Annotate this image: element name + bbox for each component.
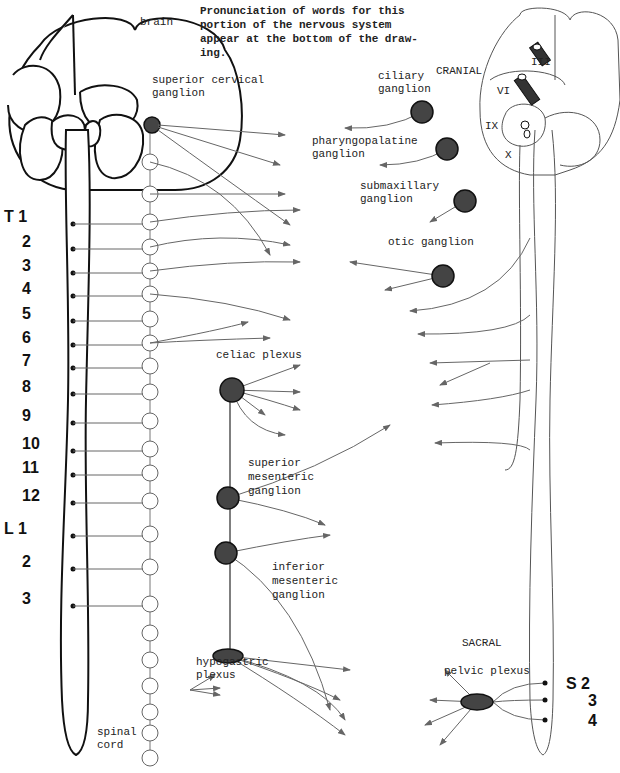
segment-label: 7 (22, 352, 31, 369)
segment-label: 3 (22, 257, 31, 274)
label-pelvic: pelvic plexus (444, 665, 530, 677)
caption: Pronunciation of words for this portion … (200, 5, 418, 59)
chain-ganglion (142, 441, 158, 457)
sacral-segment-label: 4 (588, 712, 597, 729)
segment-label: L 1 (4, 520, 27, 537)
chain-ganglion (142, 725, 158, 741)
label-spinal-cord: spinal (97, 726, 137, 738)
sacral-root-dot (543, 718, 548, 723)
nerve-fiber (435, 442, 530, 450)
chain-ganglion (142, 311, 158, 327)
segment-label: 5 (22, 305, 31, 322)
segment-label: 12 (22, 487, 40, 504)
label-superior-cervical: ganglion (152, 87, 205, 99)
label-brain: brain (140, 16, 173, 28)
chain-ganglion (142, 465, 158, 481)
label-pharyngopalatine: ganglion (312, 148, 365, 160)
segment-label: 6 (22, 329, 31, 346)
nerve-fiber (418, 315, 530, 334)
nerve-fiber (432, 390, 530, 405)
nerve-fiber (228, 498, 325, 525)
caption-line: appear at the bottom of the draw- (200, 33, 418, 45)
superior-cervical-ganglion (144, 117, 160, 133)
nerve-fiber (350, 262, 443, 276)
otic-ganglion (432, 265, 454, 287)
nerve-fiber (190, 690, 220, 695)
segment-label: 9 (22, 407, 31, 424)
nerve-fiber (410, 238, 530, 311)
chain-ganglion (142, 384, 158, 400)
label-inferior-mesenteric: inferior (272, 561, 325, 573)
label-submaxillary: ganglion (360, 193, 413, 205)
sacral-segment-label: 3 (588, 692, 597, 709)
nerve-fiber (190, 688, 220, 690)
label-cn-ix: IX (485, 120, 499, 132)
sacral-root-dot (543, 698, 548, 703)
chain-ganglion (142, 652, 158, 668)
superior-mesenteric-ganglion (217, 487, 239, 509)
label-superior-cervical: superior cervical (152, 74, 264, 86)
nerve-fiber (345, 112, 422, 128)
label-spinal-cord: cord (97, 739, 123, 751)
chain-ganglion (142, 493, 158, 509)
label-pharyngopalatine: pharyngopalatine (312, 135, 418, 147)
label-otic: otic ganglion (388, 236, 474, 248)
caption-line: Pronunciation of words for this (200, 5, 405, 17)
chain-ganglion (142, 358, 158, 374)
segment-label: 11 (22, 459, 39, 476)
nerve-fiber (440, 363, 490, 385)
chain-ganglion (142, 559, 158, 575)
label-superior-mesenteric: superior (248, 457, 301, 469)
chain-ganglion (142, 750, 158, 766)
chain-ganglion (142, 704, 158, 720)
caption-line: portion of the nervous system (200, 19, 392, 31)
sacral-fiber (493, 700, 545, 702)
submaxillary-ganglion (454, 190, 476, 212)
label-cn-iii: III (531, 56, 551, 68)
nervous-system-diagram: brain Pronunciation of words for this po… (0, 0, 620, 773)
nerve-fiber (226, 535, 330, 553)
segment-label: 10 (22, 435, 40, 452)
sacral-fiber (493, 702, 545, 720)
label-cranial: CRANIAL (436, 65, 482, 77)
label-superior-mesenteric: ganglion (248, 485, 301, 497)
sacral-segment-label: S 2 (566, 675, 590, 692)
label-inferior-mesenteric: ganglion (272, 589, 325, 601)
label-ciliary: ciliary (378, 70, 425, 82)
label-celiac: celiac plexus (216, 349, 302, 361)
nerve-fiber (150, 262, 300, 271)
pharyngopalatine-ganglion (436, 138, 458, 160)
segment-label: 3 (22, 590, 31, 607)
label-superior-mesenteric: mesenteric (248, 471, 314, 483)
segment-label: 2 (22, 553, 31, 570)
chain-ganglion (142, 526, 158, 542)
celiac-plexus (220, 378, 244, 402)
label-hypogastric: plexus (196, 669, 236, 681)
brain-left (8, 15, 242, 755)
segment-label: 8 (22, 378, 31, 395)
chain-ganglion (142, 413, 158, 429)
segment-label: 4 (22, 280, 31, 297)
nerve-fiber (430, 360, 530, 363)
sacral-fiber (493, 683, 545, 702)
segment-label: T 1 (4, 208, 27, 225)
nerve-fiber (150, 338, 270, 343)
ciliary-ganglion (411, 101, 433, 123)
segment-label: 2 (22, 233, 31, 250)
label-submaxillary: submaxillary (360, 180, 440, 192)
sacral-root-dot (543, 681, 548, 686)
chain-ganglion (142, 625, 158, 641)
label-cn-x: X (505, 149, 512, 161)
inferior-mesenteric-ganglion (215, 542, 237, 564)
label-inferior-mesenteric: mesenteric (272, 575, 338, 587)
label-cn-vi: VI (497, 85, 510, 97)
nerve-fiber (150, 322, 248, 343)
spinal-cord-right (529, 130, 555, 755)
nerve-fiber (150, 294, 290, 320)
caption-line: ing. (200, 47, 226, 59)
chain-ganglion (142, 596, 158, 612)
chain-ganglion (142, 678, 158, 694)
label-ciliary: ganglion (378, 83, 431, 95)
pelvic-plexus (461, 694, 493, 710)
label-hypogastric: hypogastric (196, 656, 269, 668)
